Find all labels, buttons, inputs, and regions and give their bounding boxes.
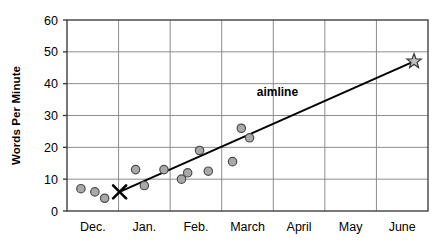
y-tick-label: 30 bbox=[44, 109, 58, 123]
y-tick-label: 60 bbox=[44, 14, 58, 28]
data-point bbox=[100, 194, 108, 202]
data-point bbox=[228, 157, 236, 165]
x-tick-label: June bbox=[389, 220, 416, 234]
data-point bbox=[140, 181, 148, 189]
y-tick-label: 50 bbox=[44, 45, 58, 59]
x-tick-label: Feb. bbox=[183, 220, 208, 234]
aimline-label: aimline bbox=[257, 85, 299, 99]
data-points bbox=[77, 124, 254, 202]
gridlines bbox=[67, 20, 428, 211]
data-point bbox=[245, 134, 253, 142]
y-tick-label: 0 bbox=[51, 205, 58, 219]
x-tick-label: Dec. bbox=[80, 220, 106, 234]
words-per-minute-scatter-chart: 0102030405060Words Per MinuteDec.Jan.Feb… bbox=[0, 0, 448, 251]
y-tick-label: 10 bbox=[44, 173, 58, 187]
x-tick-label: April bbox=[287, 220, 312, 234]
start-x-marker bbox=[113, 185, 126, 198]
data-point bbox=[160, 165, 168, 173]
x-tick-label: Jan. bbox=[133, 220, 157, 234]
data-point bbox=[77, 185, 85, 193]
y-axis: 0102030405060 bbox=[44, 14, 67, 219]
y-axis-title: Words Per Minute bbox=[10, 66, 22, 165]
x-tick-label: May bbox=[339, 220, 363, 234]
y-tick-label: 20 bbox=[44, 141, 58, 155]
data-point bbox=[195, 146, 203, 154]
chart-figure: 0102030405060Words Per MinuteDec.Jan.Feb… bbox=[0, 0, 448, 251]
data-point bbox=[131, 165, 139, 173]
data-point bbox=[237, 124, 245, 132]
annotations: aimline bbox=[257, 85, 299, 99]
data-point bbox=[204, 167, 212, 175]
x-axis: Dec.Jan.Feb.MarchAprilMayJune bbox=[80, 220, 416, 234]
data-point bbox=[91, 188, 99, 196]
y-tick-label: 40 bbox=[44, 77, 58, 91]
data-point bbox=[183, 169, 191, 177]
x-tick-label: March bbox=[230, 220, 265, 234]
goal-star-marker bbox=[407, 54, 421, 68]
